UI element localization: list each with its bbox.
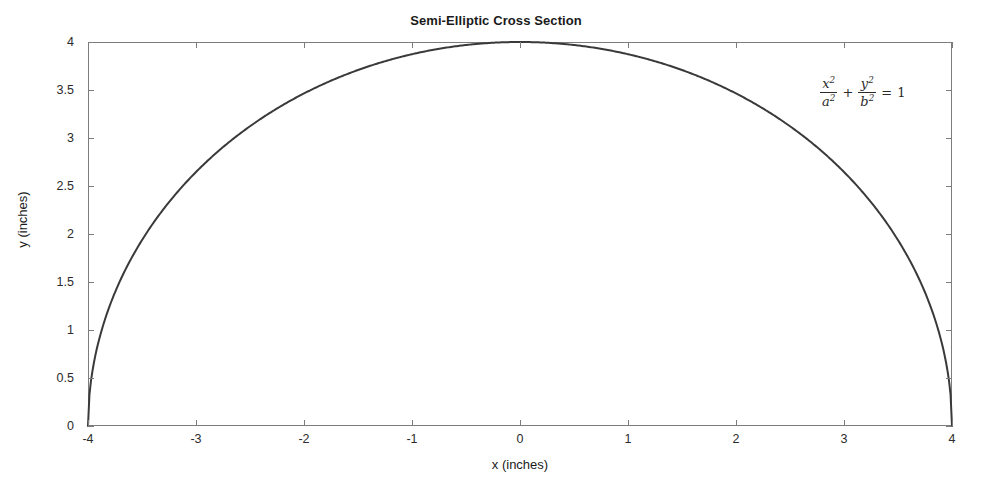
y-tick-label: 1: [67, 323, 74, 337]
x-tick-label: 4: [949, 432, 956, 446]
y-tick-mark: [946, 330, 952, 331]
y-tick-mark: [88, 282, 94, 283]
x-tick-mark: [628, 42, 629, 48]
y-tick-mark: [88, 90, 94, 91]
x-axis-label: x (inches): [88, 457, 952, 472]
y-tick-label: 0: [67, 419, 74, 433]
x-tick-mark: [520, 420, 521, 426]
equation-numerator-x: x2: [820, 76, 837, 92]
equation-plus-sign: +: [841, 85, 854, 100]
y-axis-tick-labels: 00.511.522.533.54: [0, 0, 82, 495]
y-tick-mark: [946, 42, 952, 43]
y-tick-mark: [946, 378, 952, 379]
ellipse-equation-annotation: x2 a2 + y2 b2 = 1: [820, 76, 905, 109]
equation-fraction-x: x2 a2: [820, 76, 837, 109]
x-tick-mark: [952, 420, 953, 426]
equation-denominator-b: b2: [858, 92, 876, 109]
x-tick-label: 1: [625, 432, 632, 446]
y-tick-label: 3.5: [57, 83, 74, 97]
y-tick-mark: [88, 186, 94, 187]
y-tick-mark: [88, 378, 94, 379]
x-tick-mark: [412, 420, 413, 426]
x-tick-label: 3: [841, 432, 848, 446]
x-tick-mark: [628, 420, 629, 426]
y-tick-mark: [946, 186, 952, 187]
y-tick-mark: [88, 234, 94, 235]
y-tick-mark: [946, 90, 952, 91]
y-tick-label: 2.5: [57, 179, 74, 193]
y-tick-label: 2: [67, 227, 74, 241]
y-tick-mark: [946, 426, 952, 427]
equation-equals-sign: =: [880, 85, 893, 100]
y-tick-mark: [88, 42, 94, 43]
y-tick-label: 1.5: [57, 275, 74, 289]
x-tick-label: -3: [190, 432, 201, 446]
y-tick-mark: [946, 138, 952, 139]
x-tick-mark: [736, 420, 737, 426]
y-tick-label: 3: [67, 131, 74, 145]
equation-denominator-a: a2: [820, 92, 837, 109]
y-tick-mark: [88, 426, 94, 427]
x-tick-mark: [196, 420, 197, 426]
figure-canvas: Semi-Elliptic Cross Section -4-3-2-10123…: [0, 0, 992, 495]
x-tick-mark: [520, 42, 521, 48]
x-tick-mark: [196, 42, 197, 48]
x-tick-mark: [844, 420, 845, 426]
y-tick-label: 4: [67, 35, 74, 49]
equation-fraction-y: y2 b2: [858, 76, 876, 109]
equation-right-hand-side: 1: [897, 85, 905, 100]
equation-numerator-y: y2: [859, 76, 876, 92]
x-tick-mark: [304, 42, 305, 48]
x-tick-mark: [412, 42, 413, 48]
y-tick-mark: [946, 234, 952, 235]
x-tick-mark: [952, 42, 953, 48]
x-tick-label: -2: [298, 432, 309, 446]
x-tick-label: 0: [517, 432, 524, 446]
chart-title: Semi-Elliptic Cross Section: [0, 13, 992, 28]
y-tick-mark: [88, 330, 94, 331]
y-tick-mark: [946, 282, 952, 283]
y-axis-label: y (inches): [15, 110, 30, 330]
x-tick-label: -4: [82, 432, 93, 446]
x-tick-label: 2: [733, 432, 740, 446]
x-tick-mark: [304, 420, 305, 426]
y-tick-label: 0.5: [57, 371, 74, 385]
x-tick-mark: [844, 42, 845, 48]
x-tick-label: -1: [406, 432, 417, 446]
y-tick-mark: [88, 138, 94, 139]
x-tick-mark: [736, 42, 737, 48]
